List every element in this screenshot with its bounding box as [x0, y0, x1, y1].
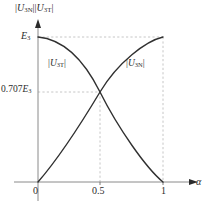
y-tick-label-e3: E3: [21, 31, 31, 42]
x-tick-label-0: 0: [33, 186, 38, 196]
figure-container: |U3N||U3T| α E3 0.707E3 0 0.5 1 |U3T| |U…: [0, 0, 210, 212]
axes: [14, 25, 192, 201]
y-axis-label: |U3N||U3T|: [15, 3, 53, 14]
x-axis-label: α: [196, 177, 201, 187]
y-axis-arrowhead: [35, 19, 41, 28]
x-tick-label-05: 0.5: [92, 186, 105, 196]
curve-label-u3t: |U3T|: [48, 59, 66, 69]
curve-label-u3n: |U3N|: [126, 59, 145, 69]
y-tick-label-0707e3: 0.707E3: [1, 85, 31, 95]
plot-canvas: [0, 0, 210, 212]
x-tick-label-1: 1: [161, 186, 166, 196]
